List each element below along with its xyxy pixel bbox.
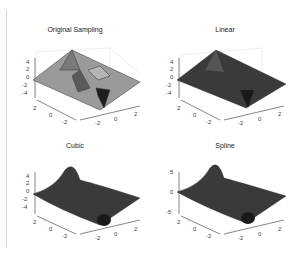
svg-text:0: 0 — [258, 231, 262, 237]
surface-plot: 420 -2-4 20-2 -202 — [0, 130, 150, 263]
svg-text:-2: -2 — [22, 196, 28, 202]
svg-text:2: 2 — [177, 219, 181, 225]
svg-text:0: 0 — [26, 74, 30, 80]
plot-spline: Spline 50-5 20-2 -202 — [150, 130, 300, 260]
svg-text:2: 2 — [33, 105, 37, 111]
svg-text:2: 2 — [278, 226, 282, 232]
svg-text:0: 0 — [114, 231, 118, 237]
svg-text:-2: -2 — [95, 120, 101, 126]
svg-text:4: 4 — [170, 59, 174, 65]
svg-text:2: 2 — [134, 226, 138, 232]
surface-plot: 420 -2-4 20-2 -202 — [150, 0, 300, 130]
svg-text:4: 4 — [26, 59, 30, 65]
svg-text:2: 2 — [134, 111, 138, 117]
svg-text:0: 0 — [193, 112, 197, 118]
svg-text:-2: -2 — [238, 120, 244, 126]
svg-text:2: 2 — [26, 180, 30, 186]
svg-text:0: 0 — [49, 226, 53, 232]
svg-text:-4: -4 — [22, 90, 28, 96]
svg-text:0: 0 — [49, 112, 53, 118]
svg-text:-2: -2 — [62, 119, 68, 125]
svg-text:-2: -2 — [95, 235, 101, 241]
plot-original-sampling: Original Sampling 420 -2-4 20-2 -202 — [0, 0, 150, 130]
plot-cubic: Cubic 420 -2-4 20-2 -202 — [0, 130, 150, 260]
svg-text:-4: -4 — [22, 204, 28, 210]
svg-text:4: 4 — [26, 173, 30, 179]
svg-text:-5: -5 — [166, 209, 172, 215]
svg-text:0: 0 — [193, 226, 197, 232]
svg-text:-2: -2 — [206, 119, 212, 125]
svg-text:-2: -2 — [22, 82, 28, 88]
surface-plot: 420 -2-4 20-2 -202 — [0, 0, 150, 130]
svg-text:2: 2 — [177, 105, 181, 111]
svg-text:0: 0 — [170, 74, 174, 80]
svg-text:2: 2 — [278, 111, 282, 117]
svg-text:-2: -2 — [238, 235, 244, 241]
svg-text:-4: -4 — [166, 90, 172, 96]
svg-text:0: 0 — [258, 116, 262, 122]
svg-text:5: 5 — [170, 169, 174, 175]
svg-text:0: 0 — [26, 188, 30, 194]
svg-text:2: 2 — [26, 66, 30, 72]
svg-text:0: 0 — [114, 116, 118, 122]
svg-text:-2: -2 — [62, 233, 68, 239]
svg-text:2: 2 — [33, 219, 37, 225]
svg-text:2: 2 — [170, 66, 174, 72]
svg-text:-2: -2 — [166, 82, 172, 88]
svg-text:0: 0 — [170, 189, 174, 195]
surface-plot: 50-5 20-2 -202 — [150, 130, 300, 263]
plot-linear: Linear 420 -2-4 20-2 -202 — [150, 0, 300, 130]
svg-text:-2: -2 — [206, 233, 212, 239]
